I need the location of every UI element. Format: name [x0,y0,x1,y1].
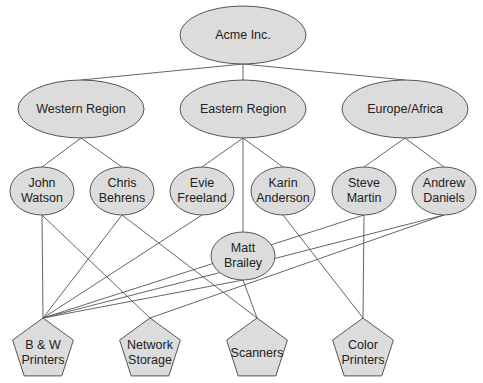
edge-chris-bw [43,215,122,318]
resource-bw-printers: B & W Printers [21,338,64,368]
edge-europe-steve [364,138,405,167]
node-chris-behrens: Chris Behrens [99,176,146,206]
node-matt-brailey: Matt Brailey [224,241,262,271]
resource-color-printers: Color Printers [341,338,384,368]
edge-eastern-evie [202,138,243,167]
resource-scanners: Scanners [231,346,284,361]
node-karin-anderson: Karin Anderson [256,176,310,206]
edge-karin-color [283,215,363,318]
node-john-watson: John Watson [21,176,63,206]
edge-john-network [42,215,150,318]
edge-andrew-network [150,215,444,318]
org-diagram [0,0,483,383]
edge-steve-color [363,215,364,318]
node-western-region: Western Region [36,102,125,117]
edge-root-western [81,64,243,80]
node-acme-inc: Acme Inc. [215,28,271,43]
resource-network-storage: Network Storage [127,338,173,368]
edge-western-chris [81,138,122,167]
node-steve-martin: Steve Martin [347,176,382,206]
edge-steve-bw [43,215,364,318]
edge-eastern-karin [243,138,283,167]
edge-western-john [42,138,81,167]
edge-europe-andrew [405,138,444,167]
node-eastern-region: Eastern Region [200,102,286,117]
node-europe-africa: Europe/Africa [367,102,443,117]
edge-root-europe [243,64,405,80]
node-andrew-daniels: Andrew Daniels [423,176,465,206]
edge-john-bw [42,215,43,318]
node-evie-freeland: Evie Freeland [177,176,226,206]
